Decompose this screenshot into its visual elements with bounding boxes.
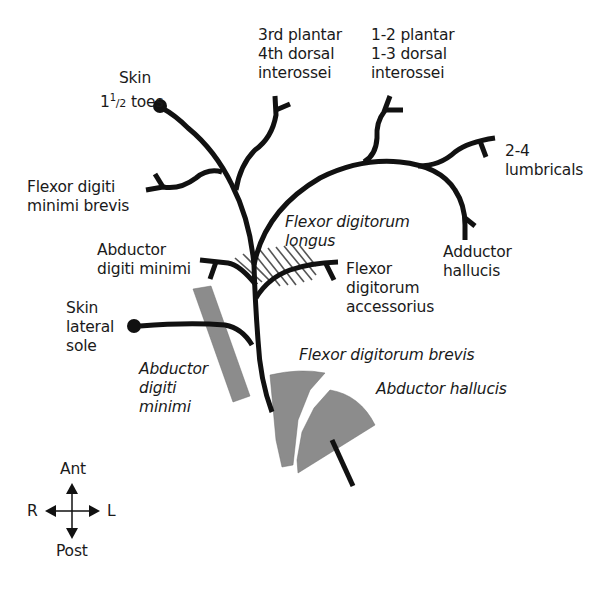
branch-third-plantar <box>236 96 276 190</box>
diagram-graphics <box>0 0 610 590</box>
branch-tip <box>276 104 290 110</box>
distal-continuation <box>332 440 353 486</box>
arrow-up-icon <box>66 483 78 494</box>
orientation-compass <box>45 483 100 539</box>
label-skin-lateral-sole: Skin lateral sole <box>66 299 114 356</box>
arrow-left-icon <box>45 505 56 517</box>
branch-tip <box>155 174 163 187</box>
label-lumbricals: 2-4 lumbricals <box>505 142 583 180</box>
compass-post: Post <box>56 542 88 561</box>
label-third-plantar: 3rd plantar 4th dorsal interossei <box>258 26 342 83</box>
branch-adm <box>200 260 256 285</box>
branch-skin-lateral-sole <box>140 324 252 345</box>
abductor-hallucis-muscle <box>297 390 375 473</box>
branch-one-two-plantar <box>364 96 390 162</box>
label-adm-muscle: Abductor digiti minimi <box>139 360 208 417</box>
label-adductor-hallucis: Adductor hallucis <box>443 243 512 281</box>
arrow-right-icon <box>89 505 100 517</box>
branch-tip <box>480 141 486 157</box>
label-adm-branch: Abductor digiti minimi <box>97 241 191 279</box>
arrow-down-icon <box>66 528 78 539</box>
label-abductor-hallucis: Abductor hallucis <box>376 380 507 399</box>
label-one-two-plantar: 1-2 plantar 1-3 dorsal interossei <box>371 26 454 83</box>
skin-lateral-sole-terminal <box>127 319 141 333</box>
label-skin-toes: Skin11/2 toes <box>100 50 163 132</box>
nerve-diagram: Skin11/2 toes 3rd plantar 4th dorsal int… <box>0 0 610 590</box>
label-fdl: Flexor digitorum longus <box>285 213 410 251</box>
compass-ant: Ant <box>60 460 86 479</box>
branch-tip <box>210 262 216 279</box>
compass-r: R <box>27 502 38 521</box>
label-fdb: Flexor digitorum brevis <box>299 346 475 365</box>
label-fda: Flexor digitorum accessorius <box>346 260 434 317</box>
branch-tip <box>326 264 334 280</box>
compass-l: L <box>107 502 115 521</box>
label-fdmb: Flexor digiti minimi brevis <box>27 178 129 216</box>
